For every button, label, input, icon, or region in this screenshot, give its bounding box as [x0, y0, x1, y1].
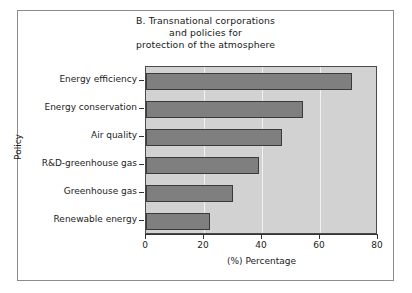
x-axis-title: (%) Percentage	[145, 256, 378, 266]
y-tick-mark	[139, 192, 144, 193]
bar	[146, 185, 233, 202]
bar	[146, 129, 282, 146]
chart-title-line-3: protection of the atmosphere	[17, 39, 394, 51]
y-tick-label: R&D-greenhouse gas	[17, 158, 137, 168]
gridline-x-60	[320, 67, 321, 233]
x-tick-label: 40	[246, 240, 276, 250]
bar	[146, 213, 210, 230]
x-tick-mark	[145, 235, 146, 239]
chart-title: B. Transnational corporations and polici…	[17, 15, 394, 52]
y-tick-label: Renewable energy	[17, 214, 137, 224]
chart-title-line-2: and policies for	[17, 27, 394, 39]
gridline-x-20	[204, 67, 205, 233]
bar	[146, 157, 259, 174]
x-tick-label: 60	[304, 240, 334, 250]
bar	[146, 101, 303, 118]
chart-title-line-1: B. Transnational corporations	[17, 15, 394, 27]
y-tick-label: Energy conservation	[17, 102, 137, 112]
bar	[146, 73, 352, 90]
plot-area	[145, 66, 377, 234]
x-tick-mark	[319, 235, 320, 239]
x-tick-mark	[377, 235, 378, 239]
x-tick-mark	[203, 235, 204, 239]
y-tick-label: Air quality	[17, 130, 137, 140]
y-tick-labels: Energy efficiencyEnergy conservationAir …	[16, 66, 137, 234]
y-axis-title: Policy	[13, 107, 23, 187]
y-tick-mark	[139, 80, 144, 81]
x-tick-label: 0	[130, 240, 160, 250]
y-tick-mark	[139, 136, 144, 137]
y-tick-label: Greenhouse gas	[17, 186, 137, 196]
y-tick-mark	[139, 108, 144, 109]
x-tick-label: 80	[362, 240, 392, 250]
y-tick-mark	[139, 220, 144, 221]
x-tick-label: 20	[188, 240, 218, 250]
x-tick-mark	[261, 235, 262, 239]
y-tick-label: Energy efficiency	[17, 74, 137, 84]
y-tick-mark	[139, 164, 144, 165]
gridline-x-40	[262, 67, 263, 233]
figure: B. Transnational corporations and polici…	[0, 0, 412, 293]
